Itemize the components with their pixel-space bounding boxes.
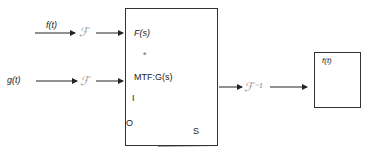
f-t-label: f(t): [46, 20, 57, 30]
fourier-transform-g-symbol: ℱ: [80, 74, 89, 89]
output-f-t-label: f(t): [322, 56, 332, 65]
mtf-label: MTF:G(s): [134, 72, 173, 82]
graph-y-top-tick: I: [132, 93, 135, 103]
g-t-label: g(t): [7, 75, 21, 85]
inverse-fourier-transform-symbol: ℱ⁻¹: [244, 80, 263, 95]
graph-x-axis-label: S: [193, 126, 199, 136]
graph-origin-label: O: [126, 118, 133, 128]
multiply-operator: *: [143, 50, 147, 60]
fourier-transform-f-symbol: ℱ: [79, 25, 88, 40]
F-s-label: F(s): [134, 28, 150, 38]
